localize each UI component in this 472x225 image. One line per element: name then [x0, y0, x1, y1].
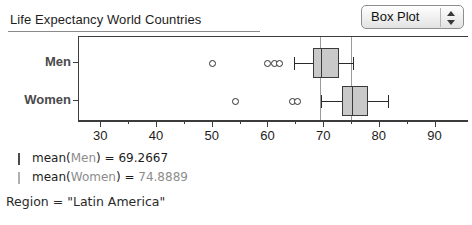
whisker-low-men — [294, 63, 314, 64]
outlier-point-men — [276, 60, 283, 67]
x-tick-label-70: 70 — [316, 128, 330, 143]
triangle-up-icon[interactable] — [447, 11, 455, 16]
x-tick-label-90: 90 — [427, 128, 441, 143]
whisker-cap-high-men — [353, 57, 354, 70]
box-plot-window: Life Expectancy World Countries Box Plot… — [0, 0, 472, 225]
legend-area: mean(Men) = 69.2667 mean(Women) = 74.888… — [0, 150, 472, 225]
x-tick-label-30: 30 — [93, 128, 107, 143]
whisker-cap-high-women — [388, 95, 389, 108]
x-tick-major-60 — [267, 121, 268, 127]
x-tick-label-40: 40 — [149, 128, 163, 143]
x-tick-label-60: 60 — [260, 128, 274, 143]
median-line-men — [321, 48, 322, 78]
title-underline — [8, 31, 260, 32]
outlier-point-men — [209, 60, 216, 67]
x-tick-major-80 — [379, 121, 380, 127]
x-tick-minor-45 — [184, 121, 185, 124]
plot-type-value: Box Plot — [371, 9, 419, 24]
x-tick-major-70 — [323, 121, 324, 127]
axis-label-women: Women — [24, 92, 71, 107]
header-bar: Life Expectancy World Countries Box Plot — [0, 0, 472, 34]
dropdown-divider — [440, 8, 441, 27]
x-tick-minor-75 — [351, 121, 352, 124]
x-axis-line — [78, 120, 468, 121]
whisker-high-men — [339, 63, 353, 64]
axis-label-men: Men — [45, 54, 71, 69]
outlier-point-women — [232, 98, 239, 105]
x-tick-major-30 — [100, 121, 101, 127]
region-filter-text: Region = "Latin America" — [6, 194, 165, 209]
legend-marker-men — [18, 153, 20, 165]
plot-type-dropdown[interactable]: Box Plot — [361, 5, 464, 29]
x-tick-minor-35 — [128, 121, 129, 124]
x-tick-minor-85 — [407, 121, 408, 124]
whisker-low-women — [321, 101, 342, 102]
x-tick-label-80: 80 — [372, 128, 386, 143]
stepper-arrows[interactable] — [446, 10, 457, 26]
legend-text-men: mean(Men) = 69.2667 — [32, 151, 168, 165]
x-tick-minor-55 — [240, 121, 241, 124]
plot-frame — [78, 36, 468, 122]
box-men — [313, 48, 339, 78]
x-axis: 30405060708090 — [0, 120, 472, 146]
outlier-point-women — [294, 98, 301, 105]
whisker-cap-low-men — [294, 57, 295, 70]
triangle-down-icon[interactable] — [447, 20, 455, 25]
x-tick-major-40 — [156, 121, 157, 127]
outlier-point-men — [264, 60, 271, 67]
whisker-cap-low-women — [321, 95, 322, 108]
legend-text-women: mean(Women) = 74.8889 — [32, 170, 188, 184]
median-line-women — [352, 86, 353, 116]
whisker-high-women — [368, 101, 389, 102]
x-tick-major-90 — [435, 121, 436, 127]
page-title: Life Expectancy World Countries — [10, 12, 201, 27]
x-tick-label-50: 50 — [204, 128, 218, 143]
x-tick-minor-65 — [295, 121, 296, 124]
x-tick-major-50 — [212, 121, 213, 127]
legend-marker-women — [18, 172, 20, 184]
box-women — [342, 86, 368, 116]
